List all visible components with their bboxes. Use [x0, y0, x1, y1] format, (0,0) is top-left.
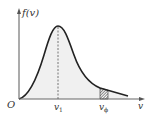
y-axis-arrow-icon [17, 8, 21, 14]
x-axis-label: v [138, 102, 143, 111]
shaded-area [19, 26, 128, 99]
peak-speed-subscript: 1 [59, 106, 63, 113]
distribution-diagram [0, 0, 155, 124]
y-axis-label: f(v) [22, 8, 39, 18]
strip-speed-subscript: ϕ [104, 106, 108, 113]
peak-speed-label: v1 [54, 103, 63, 113]
origin-label: O [7, 100, 15, 110]
strip-speed-label: vϕ [99, 103, 108, 113]
